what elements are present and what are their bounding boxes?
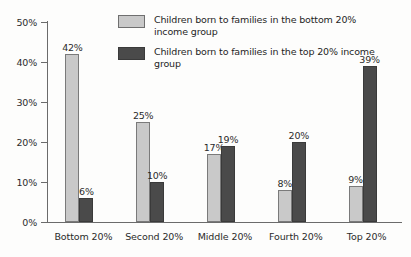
- bar-value-label: 25%: [133, 110, 154, 121]
- bar: [79, 198, 93, 222]
- legend-item-label: Children born to families in the bottom …: [154, 14, 389, 37]
- bar: [363, 66, 377, 222]
- y-axis-tick-label: 40%: [16, 57, 37, 68]
- bar: [278, 190, 292, 222]
- grouped-bar-chart: 0%10%20%30%40%50% 42%6%25%10%17%19%8%20%…: [0, 0, 411, 257]
- x-axis-category-label: Second 20%: [125, 231, 183, 242]
- bar-value-label: 20%: [289, 130, 310, 141]
- x-axis-category-label: Top 20%: [347, 231, 386, 242]
- bar: [221, 146, 235, 222]
- bar: [150, 182, 164, 222]
- bar-value-label: 9%: [348, 174, 363, 185]
- y-axis-tick-label: 0%: [22, 217, 37, 228]
- x-axis-line: [47, 222, 402, 223]
- x-axis-category-label: Middle 20%: [198, 231, 253, 242]
- bar: [292, 142, 306, 222]
- bar: [349, 186, 363, 222]
- y-axis-tick: [41, 102, 48, 103]
- y-axis-tick: [41, 182, 48, 183]
- y-axis-tick-label: 20%: [16, 137, 37, 148]
- y-axis-tick: [41, 222, 48, 223]
- legend-item-label: Children born to families in the top 20%…: [154, 46, 389, 69]
- y-axis-tick: [41, 22, 48, 23]
- y-axis-line: [47, 21, 48, 223]
- y-axis-tick: [41, 62, 48, 63]
- chart-legend: Children born to families in the bottom …: [118, 14, 403, 78]
- bar-value-label: 8%: [277, 178, 292, 189]
- bar-value-label: 10%: [147, 170, 168, 181]
- bar-value-label: 19%: [218, 134, 239, 145]
- bar-value-label: 42%: [62, 42, 83, 53]
- light-gray-swatch-icon: [118, 15, 145, 28]
- x-axis-category-label: Fourth 20%: [269, 231, 323, 242]
- y-axis-tick: [41, 142, 48, 143]
- legend-item-top-income: Children born to families in the top 20%…: [118, 46, 403, 69]
- dark-gray-swatch-icon: [118, 47, 145, 60]
- legend-item-bottom-income: Children born to families in the bottom …: [118, 14, 403, 37]
- bar: [65, 54, 79, 222]
- x-axis-category-label: Bottom 20%: [54, 231, 112, 242]
- y-axis-tick-label: 10%: [16, 177, 37, 188]
- y-axis-tick-label: 50%: [16, 17, 37, 28]
- bar-value-label: 6%: [79, 186, 94, 197]
- y-axis-tick-label: 30%: [16, 97, 37, 108]
- bar: [207, 154, 221, 222]
